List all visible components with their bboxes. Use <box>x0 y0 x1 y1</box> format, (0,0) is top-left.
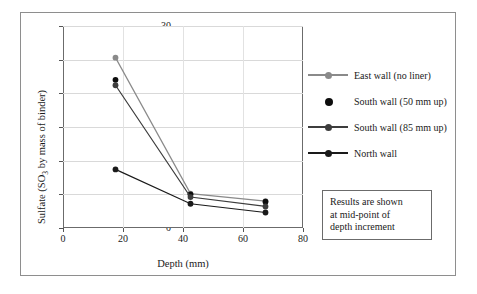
note-box: Results are shownat mid-point ofdepth in… <box>322 190 432 240</box>
data-point <box>113 82 119 88</box>
x-axis-tick-label: 0 <box>61 234 66 244</box>
legend-marker-icon <box>308 95 348 107</box>
legend-marker-icon <box>308 121 348 133</box>
data-series-layer <box>63 26 303 228</box>
legend-item-1[interactable]: East wall (no liner) <box>308 62 458 88</box>
x-axis-tick-label: 60 <box>238 234 248 244</box>
series-3 <box>113 82 269 209</box>
legend-dot-icon <box>325 98 333 106</box>
legend-dot-icon <box>325 150 332 157</box>
y-axis-title: Sulfate (SO3 by mass of binder) <box>36 90 50 224</box>
x-axis-tick-mark <box>123 228 124 232</box>
data-point <box>113 77 119 83</box>
y-axis-title-pre: Sulfate (SO <box>36 175 47 224</box>
y-axis-title-post: by mass of binder) <box>36 90 47 171</box>
data-point <box>113 55 119 61</box>
legend-item-label: South wall (85 mm up) <box>348 122 447 133</box>
x-axis-tick-mark <box>183 228 184 232</box>
x-axis-tick-mark <box>303 228 304 232</box>
legend-item-label: South wall (50 mm up) <box>348 96 447 107</box>
legend-marker-icon <box>308 69 348 81</box>
data-point <box>263 210 269 216</box>
legend-dot-icon <box>325 72 332 79</box>
x-axis-tick-mark <box>63 228 64 232</box>
plot-area <box>63 26 303 228</box>
chart-figure: 051015202530 020406080 Depth (mm) Sulfat… <box>0 0 477 294</box>
legend-item-label: North wall <box>348 148 397 159</box>
x-axis-title: Depth (mm) <box>63 258 303 269</box>
legend-dot-icon <box>325 124 332 131</box>
legend-item-label: East wall (no liner) <box>348 70 431 81</box>
legend-item-2[interactable]: South wall (50 mm up) <box>308 88 458 114</box>
note-line-2: at mid-point of <box>330 209 424 222</box>
y-axis-title-subscript: 3 <box>41 171 50 175</box>
data-point <box>113 167 119 173</box>
x-axis-tick-label: 20 <box>118 234 128 244</box>
legend-marker-icon <box>308 147 348 159</box>
legend: East wall (no liner)South wall (50 mm up… <box>308 62 458 166</box>
series-line <box>116 85 266 206</box>
series-1 <box>113 55 269 204</box>
legend-item-4[interactable]: North wall <box>308 140 458 166</box>
data-point <box>188 194 194 200</box>
note-line-3: depth increment <box>330 221 424 234</box>
data-point <box>263 204 269 210</box>
x-axis-tick-label: 40 <box>178 234 188 244</box>
legend-item-3[interactable]: South wall (85 mm up) <box>308 114 458 140</box>
series-2 <box>113 77 269 205</box>
x-axis-tick-label: 80 <box>298 234 308 244</box>
x-axis-tick-mark <box>243 228 244 232</box>
note-line-1: Results are shown <box>330 196 424 209</box>
data-point <box>188 201 194 207</box>
